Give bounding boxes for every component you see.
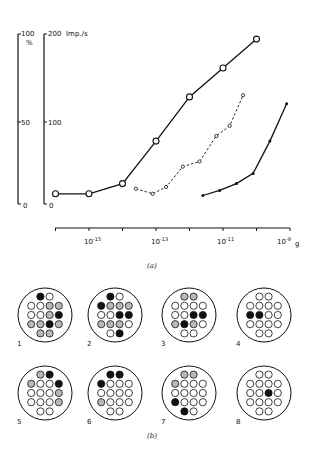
electrode-grid-7: 7: [161, 366, 216, 426]
dot-empty: [37, 380, 44, 387]
dot-filled: [190, 311, 197, 318]
dot-empty: [37, 302, 44, 309]
dot-empty: [107, 389, 114, 396]
dot-empty: [181, 330, 188, 337]
dot-shaded: [116, 302, 123, 309]
dot-shaded: [37, 330, 44, 337]
dot-filled: [37, 293, 44, 300]
dot-shaded: [98, 321, 105, 328]
data-point: [120, 181, 126, 187]
dot-empty: [125, 380, 132, 387]
dot-empty: [28, 399, 35, 406]
y-tick-label: 0: [23, 202, 27, 210]
dot-shaded: [55, 321, 62, 328]
y-tick-label: 200: [48, 30, 61, 38]
y-tick-label: 100: [48, 119, 61, 127]
data-point: [215, 134, 218, 137]
dot-empty: [116, 399, 123, 406]
dot-empty: [46, 408, 53, 415]
dot-empty: [247, 380, 254, 387]
y-axis-percent: 100 % 50 0: [18, 30, 34, 210]
series-open-circles-solid: [53, 36, 260, 197]
dot-empty: [46, 380, 53, 387]
dot-empty: [46, 293, 53, 300]
dot-filled: [116, 311, 123, 318]
dot-empty: [46, 399, 53, 406]
data-point: [285, 102, 288, 105]
dot-empty: [256, 321, 263, 328]
x-axis: 10-15 10-13 10-11 10-9 g: [55, 228, 299, 248]
dot-empty: [256, 408, 263, 415]
dot-shaded: [116, 321, 123, 328]
grid-number: 8: [236, 418, 240, 426]
dot-filled: [181, 321, 188, 328]
data-point: [151, 192, 154, 195]
dot-empty: [28, 302, 35, 309]
caption-b: (b): [147, 432, 157, 440]
dot-filled: [98, 380, 105, 387]
dot-empty: [107, 330, 114, 337]
dot-empty: [190, 330, 197, 337]
dot-filled: [181, 408, 188, 415]
data-point: [201, 194, 204, 197]
dot-shaded: [190, 293, 197, 300]
dot-empty: [199, 380, 206, 387]
dot-shaded: [172, 380, 179, 387]
dot-filled: [98, 302, 105, 309]
data-point: [220, 65, 226, 71]
x-axis-label: g: [295, 240, 299, 248]
y-axis-impulses: 200 Imp./s 100 0: [44, 30, 88, 210]
dot-empty: [256, 330, 263, 337]
dot-empty: [107, 399, 114, 406]
dot-empty: [256, 293, 263, 300]
dot-filled: [55, 380, 62, 387]
dot-filled: [116, 371, 123, 378]
dot-empty: [46, 389, 53, 396]
dot-filled: [247, 311, 254, 318]
dot-empty: [190, 302, 197, 309]
dot-empty: [37, 389, 44, 396]
data-point: [53, 191, 59, 197]
dot-shaded: [181, 293, 188, 300]
dot-empty: [181, 302, 188, 309]
dot-empty: [190, 380, 197, 387]
dot-empty: [274, 311, 281, 318]
data-point: [268, 140, 271, 143]
dot-shaded: [190, 371, 197, 378]
electrode-grid-6: 6: [87, 366, 142, 426]
dot-empty: [28, 389, 35, 396]
electrode-grid-5: 5: [17, 366, 72, 426]
dot-empty: [256, 389, 263, 396]
data-point: [235, 182, 238, 185]
dot-shaded: [98, 399, 105, 406]
dot-filled: [46, 321, 53, 328]
x-tick-label: 10-9: [277, 236, 291, 246]
dot-empty: [116, 380, 123, 387]
dot-empty: [265, 311, 272, 318]
dot-shaded: [46, 302, 53, 309]
dot-empty: [37, 311, 44, 318]
dot-filled: [107, 371, 114, 378]
dot-shaded: [55, 302, 62, 309]
dot-empty: [172, 302, 179, 309]
series-small-open-circles-dashed: [134, 94, 244, 196]
dot-filled: [55, 311, 62, 318]
dot-empty: [265, 302, 272, 309]
dot-empty: [274, 380, 281, 387]
figure: 100 % 50 0 200 Imp./s 100 0 10-15 10-13 …: [0, 0, 315, 461]
dot-shaded: [46, 311, 53, 318]
data-point: [228, 124, 231, 127]
y-axis-label: %: [26, 39, 33, 47]
dot-shaded: [37, 321, 44, 328]
dot-empty: [37, 408, 44, 415]
dot-empty: [107, 380, 114, 387]
dot-empty: [190, 399, 197, 406]
data-point: [181, 165, 184, 168]
dot-filled: [172, 399, 179, 406]
dot-filled: [199, 311, 206, 318]
electrode-grid-4: 4: [236, 288, 291, 348]
chart-series: [53, 36, 289, 197]
grid-number: 5: [17, 418, 21, 426]
dot-filled: [107, 293, 114, 300]
dot-empty: [172, 389, 179, 396]
